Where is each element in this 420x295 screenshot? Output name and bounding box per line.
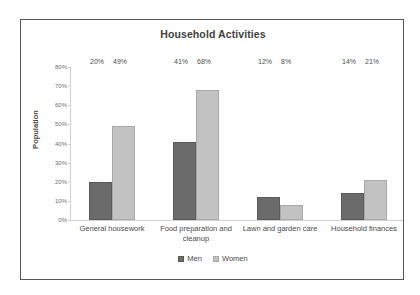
legend-label: Men bbox=[187, 254, 202, 263]
bar-men[interactable]: 14% bbox=[341, 193, 364, 220]
y-tick-label: 50% bbox=[55, 121, 67, 127]
bar-value-label: 68% bbox=[197, 58, 211, 65]
y-tick-label: 80% bbox=[55, 64, 67, 70]
y-tick-mark bbox=[68, 220, 70, 221]
x-axis-labels: General houseworkFood preparation and cl… bbox=[70, 224, 406, 244]
bar-value-label: 20% bbox=[90, 58, 104, 65]
bar-women[interactable]: 49% bbox=[112, 126, 135, 220]
x-category-label: Household finances bbox=[322, 224, 406, 244]
x-category-label: Food preparation and cleanup bbox=[154, 224, 238, 244]
bar-men[interactable]: 41% bbox=[173, 142, 196, 220]
bar-group: 14%21% bbox=[322, 67, 406, 220]
bar-value-label: 12% bbox=[258, 58, 272, 65]
bar-column: 49% bbox=[112, 67, 135, 220]
legend-swatch-icon bbox=[213, 256, 219, 262]
bar-column: 20% bbox=[89, 67, 112, 220]
bar-value-label: 41% bbox=[174, 58, 188, 65]
bar-value-label: 21% bbox=[365, 58, 379, 65]
y-tick-label: 60% bbox=[55, 102, 67, 108]
bar-column: 8% bbox=[280, 67, 303, 220]
bar-women[interactable]: 68% bbox=[196, 90, 219, 220]
bar-women[interactable]: 21% bbox=[364, 180, 387, 220]
x-category-label: General housework bbox=[70, 224, 154, 244]
chart-container: Household Activities Population 80%70%60… bbox=[20, 19, 404, 280]
bar-pair: 20%49% bbox=[70, 67, 154, 220]
legend-item-men[interactable]: Men bbox=[178, 254, 202, 263]
bar-group: 12%8% bbox=[238, 67, 322, 220]
bar-column: 14% bbox=[341, 67, 364, 220]
chart-legend: MenWomen bbox=[21, 254, 405, 263]
y-axis-title: Population bbox=[31, 90, 40, 170]
bar-value-label: 14% bbox=[342, 58, 356, 65]
y-tick-label: 30% bbox=[55, 160, 67, 166]
y-tick-label: 70% bbox=[55, 83, 67, 89]
bar-groups: 20%49%41%68%12%8%14%21% bbox=[70, 67, 406, 220]
y-tick-label: 0% bbox=[58, 217, 67, 223]
legend-item-women[interactable]: Women bbox=[213, 254, 248, 263]
bar-men[interactable]: 20% bbox=[89, 182, 112, 220]
y-tick-label: 40% bbox=[55, 141, 67, 147]
bar-group: 41%68% bbox=[154, 67, 238, 220]
bar-value-label: 8% bbox=[281, 58, 291, 65]
bar-pair: 12%8% bbox=[238, 67, 322, 220]
bar-column: 41% bbox=[173, 67, 196, 220]
y-tick-label: 10% bbox=[55, 198, 67, 204]
legend-swatch-icon bbox=[178, 256, 184, 262]
bar-women[interactable]: 8% bbox=[280, 205, 303, 220]
bar-pair: 41%68% bbox=[154, 67, 238, 220]
bar-column: 68% bbox=[196, 67, 219, 220]
bar-column: 21% bbox=[364, 67, 387, 220]
legend-label: Women bbox=[222, 254, 248, 263]
x-axis-line bbox=[70, 220, 403, 221]
y-tick-label: 20% bbox=[55, 179, 67, 185]
bar-column: 12% bbox=[257, 67, 280, 220]
bar-group: 20%49% bbox=[70, 67, 154, 220]
bar-pair: 14%21% bbox=[322, 67, 406, 220]
x-category-label: Lawn and garden care bbox=[238, 224, 322, 244]
bar-value-label: 49% bbox=[113, 58, 127, 65]
chart-title: Household Activities bbox=[21, 28, 405, 40]
bar-men[interactable]: 12% bbox=[257, 197, 280, 220]
